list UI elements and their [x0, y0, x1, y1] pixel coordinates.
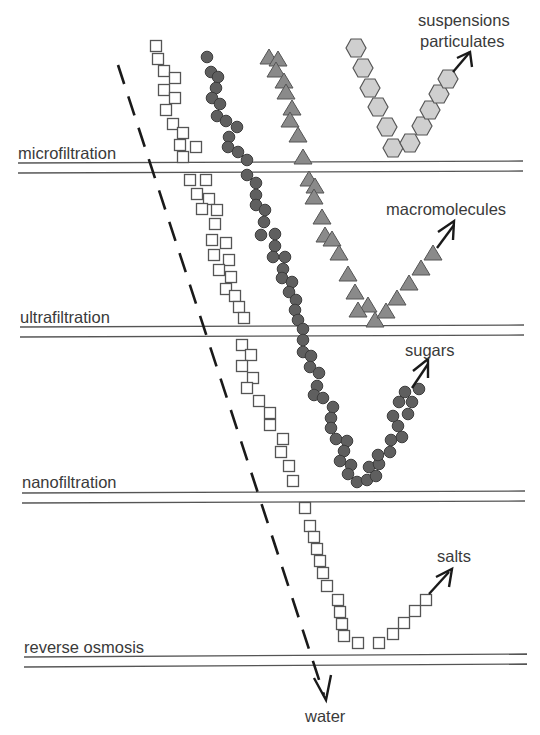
label-particulates: particulates [420, 32, 504, 50]
water-arrowhead-icon [314, 675, 331, 700]
label-nanofiltration: nanofiltration [22, 473, 116, 491]
label-microfiltration: microfiltration [18, 144, 116, 162]
label-salts: salts [437, 547, 471, 565]
membrane-ultrafiltration [20, 325, 524, 337]
label-sugars: sugars [405, 341, 455, 359]
label-suspensions: suspensions [418, 11, 510, 29]
membrane-nanofiltration [22, 491, 525, 503]
hexagon-series-suspensions [346, 39, 458, 157]
label-reverse-osmosis: reverse osmosis [24, 638, 144, 656]
membrane-filtration-diagram: microfiltration ultrafiltration nanofilt… [0, 0, 540, 735]
macromolecules-arrow-icon [437, 225, 454, 248]
label-ultrafiltration: ultrafiltration [20, 308, 110, 326]
label-water: water [304, 707, 346, 725]
label-macromolecules: macromolecules [386, 200, 506, 218]
membrane-microfiltration [18, 161, 523, 173]
